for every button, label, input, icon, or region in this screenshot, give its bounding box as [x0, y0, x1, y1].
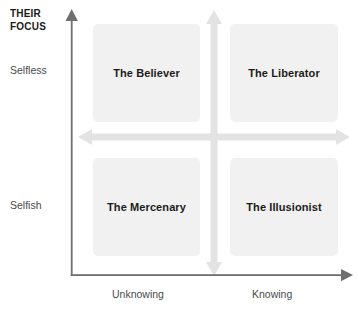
quadrant-bottom-left-label: The Mercenary: [107, 201, 186, 213]
quadrant-bottom-right[interactable]: The Illusionist: [230, 158, 338, 256]
quadrant-bottom-left[interactable]: The Mercenary: [93, 158, 200, 256]
x-axis-label-unknowing: Unknowing: [112, 288, 164, 301]
quadrant-matrix-chart: THEIR FOCUS Selfless Selfish Unknowing K…: [0, 0, 358, 315]
y-axis-label-selfless: Selfless: [10, 64, 47, 77]
x-axis-arrow-right-icon: [341, 269, 353, 281]
quadrant-top-right[interactable]: The Liberator: [230, 24, 338, 122]
vertical-divider-double-arrow-icon: [206, 10, 222, 276]
y-axis-title: THEIR FOCUS: [10, 7, 70, 33]
quadrant-top-right-label: The Liberator: [248, 67, 320, 79]
quadrant-top-left-label: The Believer: [113, 67, 180, 79]
x-axis-label-knowing: Knowing: [252, 288, 292, 301]
y-axis-title-line-1: THEIR: [10, 7, 70, 20]
y-axis-title-line-2: FOCUS: [10, 20, 70, 33]
quadrant-bottom-right-label: The Illusionist: [246, 201, 321, 213]
y-axis-label-selfish: Selfish: [10, 199, 42, 212]
quadrant-top-left[interactable]: The Believer: [93, 24, 200, 122]
